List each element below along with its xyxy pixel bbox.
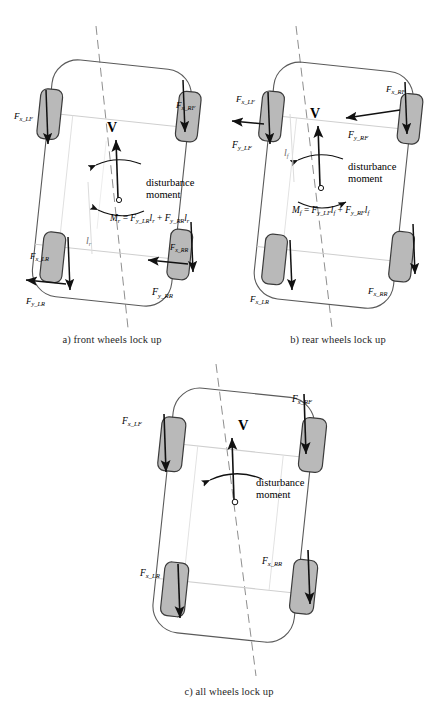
moment-arc-upper xyxy=(96,160,141,165)
label-disturbance-moment-line2: moment xyxy=(256,489,290,500)
label-force-lf-x: Fx_LF xyxy=(235,94,255,105)
label-velocity: V xyxy=(238,417,249,433)
panel-rear-wheels-lock-up: Fx_LF Fy_LF Fx_RF Fy_RF Fx_LR Fx_RR V di… xyxy=(228,22,448,332)
wheel-left-front xyxy=(157,416,187,472)
wheel-left-front xyxy=(36,88,63,140)
equation-moment: Mr = Fy_LRlr + Fy_RRlr xyxy=(109,213,190,224)
equation-moment: Mf = Fy_LFlf + Fy_RFlf xyxy=(291,205,370,216)
label-velocity: V xyxy=(310,106,320,121)
panel-all-wheels-lock-up: Fx_LF Fx_RF Fx_LR Fx_RR V disturbance mo… xyxy=(98,362,360,680)
label-force-rr: Fx_RR xyxy=(367,286,387,297)
label-force-rf-y: Fy_RF xyxy=(347,129,369,141)
label-disturbance-moment-line1: disturbance xyxy=(146,177,195,188)
cg-point xyxy=(116,197,121,202)
sub-force-rf: x_RF xyxy=(181,104,196,111)
label-force-rf-x: Fx_RF xyxy=(385,84,405,95)
label-disturbance-moment-line1: disturbance xyxy=(256,477,305,488)
arrow-force-lr xyxy=(68,237,70,290)
velocity-arrow xyxy=(318,126,320,186)
label-velocity: V xyxy=(107,120,117,135)
label-force-lr: Fx_LR xyxy=(249,294,269,305)
wheel-right-front xyxy=(396,93,423,145)
label-disturbance-moment-line1: disturbance xyxy=(348,161,397,172)
label-force-rf: Fx_RF xyxy=(291,394,313,405)
wheel-left-front xyxy=(258,90,285,142)
vehicle-centerline xyxy=(296,26,332,328)
label-dimension-lf: lf xyxy=(284,147,290,159)
sub-force-lf: x_LF xyxy=(19,115,34,122)
vehicle-centerline xyxy=(216,364,256,676)
cg-point xyxy=(232,499,238,505)
wheel-right-front xyxy=(298,417,328,473)
label-force-rr: Fx_RR xyxy=(261,556,282,567)
label-force-lf: Fx_LF xyxy=(13,111,33,122)
velocity-arrow xyxy=(116,140,118,198)
wheel-right-rear xyxy=(289,559,319,615)
vehicle-centerline xyxy=(96,26,128,328)
moment-arc xyxy=(210,474,262,480)
arrow-force-rr xyxy=(191,222,193,272)
label-disturbance-moment-line2: moment xyxy=(348,173,382,184)
wheel-right-rear xyxy=(166,228,193,280)
arrow-force-lf-lateral xyxy=(232,121,264,124)
panel-front-wheels-lock-up: Fx_LF Fx_RF Fx_LR Fy_LR Fx_RR Fy_RR V di… xyxy=(0,22,224,332)
caption-panel-b: b) rear wheels lock up xyxy=(228,334,448,345)
arrow-force-rf-lateral xyxy=(346,110,400,118)
label-force-lf-y: Fy_LF xyxy=(231,139,253,151)
label-force-lf: Fx_LF xyxy=(121,416,143,427)
wheel-right-rear xyxy=(388,231,415,283)
wheel-left-rear xyxy=(160,561,190,617)
caption-panel-c: c) all wheels lock up xyxy=(98,686,360,697)
cg-point xyxy=(318,185,323,190)
arrow-force-lr xyxy=(290,240,292,290)
wheel-left-rear xyxy=(261,233,288,285)
moment-arc-upper xyxy=(298,155,343,160)
arrow-force-rr xyxy=(413,224,415,274)
label-force-lr-y: Fy_LR xyxy=(25,296,45,307)
label-disturbance-moment-line2: moment xyxy=(146,189,180,200)
wheel-right-front xyxy=(175,91,202,143)
caption-panel-a: a) front wheels lock up xyxy=(0,334,224,345)
